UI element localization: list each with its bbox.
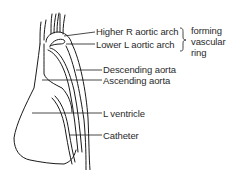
note-forming: forming	[191, 26, 222, 36]
ascending-aorta-right-wall	[44, 44, 72, 112]
label-descending-aorta: Descending aorta	[103, 65, 176, 75]
descending-aorta-outer-wall	[72, 44, 90, 170]
note-ring: ring	[191, 48, 206, 58]
left-neck-vessel-inner	[44, 20, 46, 40]
label-ascending-aorta: Ascending aorta	[103, 76, 170, 86]
label-lower-l-aortic-arch: Lower L aortic arch	[96, 40, 175, 50]
left-neck-vessel-outer	[40, 22, 41, 44]
label-higher-r-aortic-arch: Higher R aortic arch	[96, 27, 178, 37]
lower-l-aortic-arch	[50, 39, 65, 46]
vascular-ring-diagram: Higher R aortic arch Lower L aortic arch…	[0, 0, 242, 170]
label-catheter: Catheter	[103, 131, 139, 141]
bracket-icon	[180, 28, 186, 51]
leader-higher-r-arch	[64, 32, 95, 36]
note-vascular: vascular	[191, 37, 226, 47]
heart-outer-contour	[14, 44, 76, 164]
higher-r-aortic-arch	[46, 32, 72, 44]
label-l-ventricle: L ventricle	[103, 109, 145, 119]
